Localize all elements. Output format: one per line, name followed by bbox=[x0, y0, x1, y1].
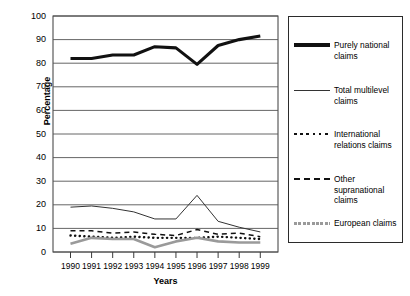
legend-item-international-relations: International relations claims bbox=[289, 128, 404, 150]
legend-label: International relations claims bbox=[334, 128, 404, 150]
y-axis-tick-label: 100 bbox=[20, 12, 46, 21]
y-axis-tick-label: 20 bbox=[20, 200, 46, 209]
y-axis-tick-label: 40 bbox=[20, 153, 46, 162]
legend-item-purely-national: Purely national claims bbox=[289, 39, 404, 61]
legend-label: Total multilevel claims bbox=[334, 84, 404, 106]
y-axis-tick-label: 80 bbox=[20, 59, 46, 68]
x-axis-tick-label: 1999 bbox=[248, 262, 272, 271]
legend-swatch-dashed-icon bbox=[294, 173, 330, 185]
chart-legend: Purely national claims Total multilevel … bbox=[288, 16, 403, 243]
legend-swatch-european-icon bbox=[294, 217, 330, 229]
y-axis-tick-label: 90 bbox=[20, 35, 46, 44]
y-axis-tick-label: 60 bbox=[20, 106, 46, 115]
y-axis-tick-label: 70 bbox=[20, 82, 46, 91]
x-axis-title: Years bbox=[53, 276, 278, 286]
legend-item-european: European claims bbox=[289, 217, 404, 229]
y-axis-tick-label: 50 bbox=[20, 130, 46, 139]
legend-label: Other supranational claims bbox=[334, 173, 404, 206]
legend-item-other-supranational: Other supranational claims bbox=[289, 173, 404, 206]
y-axis-tick-label: 10 bbox=[20, 224, 46, 233]
legend-label: European claims bbox=[334, 217, 396, 229]
y-axis-tick-label: 30 bbox=[20, 177, 46, 186]
y-axis-tick-label: 0 bbox=[20, 248, 46, 257]
legend-swatch-solid-thick-icon bbox=[294, 39, 330, 51]
legend-item-total-multilevel: Total multilevel claims bbox=[289, 84, 404, 106]
legend-swatch-solid-thin-icon bbox=[294, 84, 330, 96]
chart-container: Percentage Years Purely national claims … bbox=[0, 0, 410, 296]
legend-swatch-dotted-icon bbox=[294, 128, 330, 140]
legend-label: Purely national claims bbox=[334, 39, 404, 61]
